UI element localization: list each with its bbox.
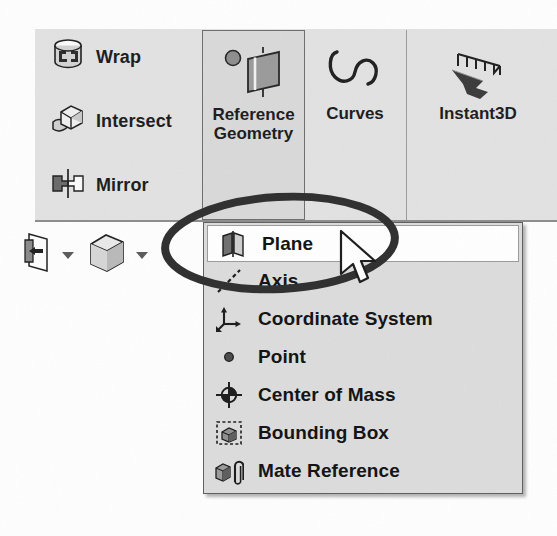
chevron-down-icon[interactable]: [62, 252, 74, 259]
mirror-icon: [49, 164, 87, 206]
reference-geometry-dropdown-menu: Plane Axis Coor: [203, 222, 523, 494]
screenshot-root: Wrap Intersect: [0, 0, 557, 536]
point-icon: [214, 343, 244, 371]
ribbon-command-label: Wrap: [96, 47, 141, 68]
menu-item-label: Mate Reference: [258, 460, 400, 482]
ribbon-command-intersect[interactable]: Intersect: [49, 97, 209, 145]
lower-toolbar-item-cube[interactable]: [85, 230, 148, 280]
ribbon-button-curves[interactable]: Curves: [307, 30, 403, 220]
curves-icon: [323, 42, 387, 104]
menu-item-label: Coordinate System: [258, 308, 433, 330]
chevron-down-icon[interactable]: [136, 252, 148, 259]
menu-item-plane[interactable]: Plane: [207, 225, 519, 262]
axis-icon: [214, 267, 244, 295]
wrap-icon: [49, 36, 87, 78]
ribbon-command-label: Intersect: [96, 111, 172, 132]
ribbon-button-label: Reference Geometry: [212, 105, 294, 143]
menu-item-mate-reference[interactable]: Mate Reference: [204, 452, 522, 490]
menu-item-center-of-mass[interactable]: Center of Mass: [204, 376, 522, 414]
ribbon-button-label: Curves: [326, 104, 384, 123]
ribbon-button-label: Instant3D: [439, 104, 516, 123]
center-of-mass-icon: [214, 381, 244, 409]
ribbon-command-wrap[interactable]: Wrap: [49, 33, 209, 81]
menu-item-point[interactable]: Point: [204, 338, 522, 376]
menu-item-label: Bounding Box: [258, 422, 389, 444]
ribbon-command-mirror[interactable]: Mirror: [49, 161, 209, 209]
ribbon-command-label: Mirror: [96, 175, 149, 196]
lower-toolbar-item-mirror-plane[interactable]: [21, 230, 74, 280]
menu-item-bounding-box[interactable]: Bounding Box: [204, 414, 522, 452]
plane-icon: [218, 230, 248, 258]
mirror-plane-icon: [21, 230, 55, 280]
menu-item-axis[interactable]: Axis: [204, 262, 522, 300]
features-ribbon: Wrap Intersect: [35, 29, 557, 221]
coordinate-system-icon: [214, 305, 244, 333]
bounding-box-icon: [214, 419, 244, 447]
menu-item-label: Center of Mass: [258, 384, 396, 406]
menu-item-label: Axis: [258, 270, 299, 292]
cube-icon: [85, 230, 129, 280]
mate-reference-icon: [214, 457, 244, 485]
menu-item-coordinate-system[interactable]: Coordinate System: [204, 300, 522, 338]
intersect-icon: [49, 100, 87, 142]
ribbon-button-instant3d[interactable]: Instant3D: [413, 30, 543, 220]
instant3d-icon: [436, 42, 520, 104]
ribbon-group-divider: [406, 30, 407, 220]
reference-geometry-icon: [217, 43, 291, 105]
menu-item-label: Plane: [262, 233, 313, 255]
menu-item-label: Point: [258, 346, 306, 368]
ribbon-button-reference-geometry[interactable]: Reference Geometry: [202, 30, 305, 220]
